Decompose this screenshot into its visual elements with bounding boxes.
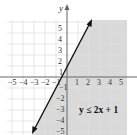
svg-text:−4: −4 <box>56 116 65 125</box>
svg-text:3: 3 <box>97 78 101 87</box>
svg-text:−3: −3 <box>30 78 39 87</box>
svg-text:2: 2 <box>58 57 62 66</box>
svg-text:−5: −5 <box>8 78 17 87</box>
y-axis-arrow-icon <box>65 4 70 10</box>
svg-text:−4: −4 <box>19 78 28 87</box>
svg-text:−5: −5 <box>56 127 65 135</box>
svg-text:−2: −2 <box>56 94 65 103</box>
svg-text:−3: −3 <box>56 105 65 114</box>
svg-text:3: 3 <box>58 46 62 55</box>
inequality-label: y ≤ 2x + 1 <box>79 105 118 115</box>
svg-text:4: 4 <box>108 78 112 87</box>
y-axis-label: y <box>58 3 63 13</box>
inequality-graph: y 5 4 3 2 1 −1 −2 −3 −4 −5 −5 −4 −3 −2 −… <box>0 0 137 135</box>
svg-text:−2: −2 <box>41 78 50 87</box>
svg-text:5: 5 <box>58 24 62 33</box>
svg-text:2: 2 <box>86 78 90 87</box>
svg-text:4: 4 <box>58 35 62 44</box>
svg-text:1: 1 <box>75 78 79 87</box>
svg-text:5: 5 <box>119 78 123 87</box>
